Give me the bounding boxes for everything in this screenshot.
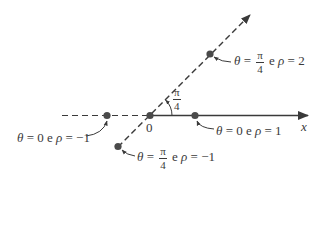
point-theta0-rho-neg1 — [103, 112, 110, 119]
theta-symbol: θ — [216, 123, 222, 138]
rho-symbol: ρ — [255, 123, 261, 138]
angle-label: π4 — [171, 87, 183, 112]
theta-symbol: θ — [17, 130, 23, 145]
angle-den: 4 — [173, 100, 181, 112]
theta-value: 0 — [236, 123, 243, 138]
theta-den: 4 — [256, 63, 264, 75]
theta-symbol: θ — [234, 53, 240, 68]
point-pi4-rho-neg1 — [114, 143, 121, 150]
rho-symbol: ρ — [56, 130, 62, 145]
leader-arrow-pi4-rho2 — [214, 57, 231, 62]
point-theta0-rho1 — [191, 112, 198, 119]
leader-arrow-theta0-rho1 — [197, 121, 214, 129]
theta-den: 4 — [159, 159, 167, 171]
label-pi4-rho-neg1: θ = π4 e ρ = −1 — [137, 146, 215, 171]
theta-num: π — [159, 146, 167, 159]
rho-value: −1 — [201, 149, 215, 164]
conjunction: e — [246, 123, 252, 138]
angle-num: π — [173, 87, 181, 100]
conjunction: e — [47, 130, 53, 145]
conjunction: e — [269, 53, 275, 68]
rho-symbol: ρ — [181, 149, 187, 164]
label-theta0-rho1: θ = 0 e ρ = 1 — [216, 124, 282, 137]
leader-arrow-pi4-rho-neg1 — [122, 150, 135, 156]
theta-value: 0 — [37, 130, 44, 145]
rho-value: 1 — [275, 123, 282, 138]
origin-point — [146, 112, 153, 119]
x-axis-label: x — [301, 120, 307, 133]
rho-symbol: ρ — [278, 53, 284, 68]
label-theta0-rho-neg1: θ = 0 e ρ = −1 — [17, 131, 90, 144]
rho-value: −1 — [76, 130, 90, 145]
theta-symbol: θ — [137, 149, 143, 164]
theta-num: π — [256, 50, 264, 63]
conjunction: e — [172, 149, 178, 164]
rho-value: 2 — [298, 53, 305, 68]
label-pi4-rho2: θ = π4 e ρ = 2 — [234, 50, 305, 75]
point-pi4-rho2 — [206, 50, 213, 57]
origin-label: 0 — [146, 121, 153, 134]
